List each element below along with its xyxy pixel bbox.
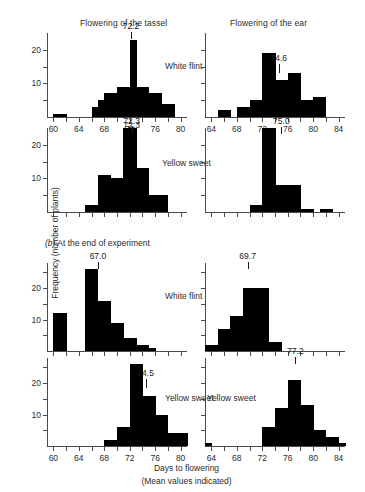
y-tick	[43, 383, 47, 384]
mean-value-label: 77.2	[287, 346, 304, 356]
y-tick	[201, 272, 205, 273]
y-axis-line	[205, 128, 206, 212]
x-tick	[275, 446, 276, 451]
x-tick	[211, 117, 212, 122]
y-tick	[43, 335, 47, 336]
x-tick	[250, 117, 251, 122]
histogram-panel-second-right: 75.0	[205, 128, 345, 212]
mean-pointer-tick	[281, 127, 282, 134]
x-tick	[262, 212, 263, 217]
y-tick	[43, 272, 47, 273]
x-tick	[326, 351, 327, 356]
x-tick	[168, 212, 169, 217]
x-tick	[237, 351, 238, 356]
histogram-bar	[162, 195, 169, 212]
section-b-text: At the end of experiment	[57, 238, 150, 248]
y-tick	[201, 178, 205, 179]
y-tick	[201, 50, 205, 51]
x-tick	[262, 117, 263, 122]
variety-label: Yellow sweet	[207, 393, 256, 403]
x-tick	[142, 446, 143, 451]
x-tick	[250, 212, 251, 217]
x-tick	[66, 117, 67, 122]
histogram-bar	[181, 433, 188, 446]
y-tick	[201, 415, 205, 416]
x-tick-label: 68	[232, 453, 241, 463]
histogram-panel-third-left: 102067.0White flint	[47, 263, 187, 351]
x-tick-label: 80	[308, 453, 317, 463]
x-tick	[237, 446, 238, 451]
x-tick	[130, 446, 131, 451]
x-tick-label: 60	[49, 453, 58, 463]
column-title-ear: Flowering of the ear	[230, 18, 307, 28]
histogram-panel-bottom-right: 64687276808477.2Yellow sweet	[205, 358, 345, 446]
x-tick	[79, 212, 80, 217]
y-tick	[43, 304, 47, 305]
x-tick	[224, 212, 225, 217]
mean-value-label: 72.2	[123, 21, 140, 31]
y-tick	[201, 288, 205, 289]
x-tick	[168, 446, 169, 451]
x-tick-label: 84	[334, 453, 343, 463]
histogram-bar	[60, 313, 67, 351]
x-tick-label: 72	[258, 453, 267, 463]
y-tick-label: 20	[19, 283, 41, 293]
y-tick	[43, 162, 47, 163]
y-tick-label: 10	[19, 78, 41, 88]
x-tick	[300, 446, 301, 451]
y-axis-line	[47, 263, 48, 351]
x-tick	[168, 351, 169, 356]
x-tick	[53, 446, 54, 451]
y-tick	[201, 383, 205, 384]
x-tick	[92, 212, 93, 217]
x-tick	[339, 117, 340, 122]
mean-value-label: 67.0	[90, 251, 107, 261]
x-tick	[300, 212, 301, 217]
y-tick	[43, 415, 47, 416]
histogram-bar	[339, 443, 346, 446]
x-tick	[117, 212, 118, 217]
x-tick	[92, 117, 93, 122]
y-tick	[43, 145, 47, 146]
histogram-bar	[205, 443, 212, 446]
variety-label: White flint	[165, 291, 202, 301]
y-tick	[43, 178, 47, 179]
x-tick	[339, 212, 340, 217]
y-tick	[43, 430, 47, 431]
mean-pointer-tick	[98, 262, 99, 269]
x-tick-label: 68	[100, 453, 109, 463]
x-tick	[262, 446, 263, 451]
x-tick	[181, 117, 182, 122]
y-tick-label: 20	[19, 378, 41, 388]
section-b-caption: (b) At the end of experiment	[45, 238, 150, 248]
y-axis-line	[205, 263, 206, 351]
x-tick	[130, 351, 131, 356]
y-tick	[201, 195, 205, 196]
mean-pointer-tick	[295, 357, 296, 364]
histogram-bar	[307, 209, 314, 212]
y-tick	[43, 67, 47, 68]
x-tick	[181, 212, 182, 217]
mean-pointer-tick	[131, 32, 132, 39]
variety-label: Yellow sweet	[162, 158, 211, 168]
histogram-panel-top-right: 64687276808474.6	[205, 33, 345, 117]
x-tick	[313, 351, 314, 356]
y-axis-line	[47, 33, 48, 117]
histogram-bar	[224, 110, 231, 117]
x-tick	[155, 446, 156, 451]
x-tick	[104, 117, 105, 122]
mean-value-label: 72.3	[123, 116, 140, 126]
x-tick	[300, 117, 301, 122]
y-tick	[201, 100, 205, 101]
x-tick	[250, 446, 251, 451]
x-tick-label: 76	[283, 453, 292, 463]
histogram-bar	[60, 114, 67, 117]
mean-value-label: 74.6	[271, 53, 288, 63]
x-tick-label: 80	[176, 453, 185, 463]
y-tick	[201, 367, 205, 368]
x-tick	[66, 446, 67, 451]
x-tick	[142, 117, 143, 122]
y-tick-label: 10	[19, 315, 41, 325]
x-tick	[224, 117, 225, 122]
x-tick	[339, 351, 340, 356]
